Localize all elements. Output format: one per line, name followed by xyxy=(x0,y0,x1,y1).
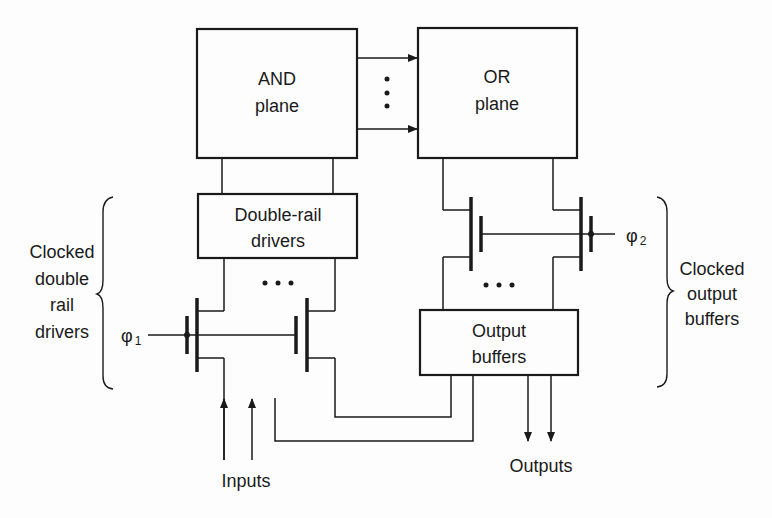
phi2-junction-dot xyxy=(588,231,594,237)
and-plane-label-2: plane xyxy=(255,96,299,116)
svg-text:double: double xyxy=(35,269,89,289)
left-brace xyxy=(97,197,113,389)
phi1-junction-dot xyxy=(184,332,190,338)
feedback-wires xyxy=(275,358,473,441)
svg-text:rail: rail xyxy=(50,295,74,315)
or-plane-block: OR plane xyxy=(418,28,577,158)
phi1-label: φ1 xyxy=(121,326,142,348)
svg-text:Clocked: Clocked xyxy=(29,242,94,262)
and-to-driver-wires xyxy=(222,158,333,194)
or-plane-label: OR xyxy=(484,67,511,87)
left-group-label: Clocked double rail drivers xyxy=(29,242,94,342)
outputs-label: Outputs xyxy=(509,456,572,476)
and-plane-block: AND plane xyxy=(197,29,357,158)
output-arrows xyxy=(528,375,551,441)
pla-diagram: AND plane OR plane Double-rail drivers xyxy=(0,0,772,518)
svg-text:Clocked: Clocked xyxy=(679,259,744,279)
phi2-label: φ2 xyxy=(626,226,647,248)
right-group-label: Clocked output buffers xyxy=(679,259,744,329)
left-clocked-transistors xyxy=(148,258,335,460)
inputs-label: Inputs xyxy=(221,471,270,491)
output-buffers-block: Output buffers xyxy=(420,310,578,375)
output-buffers-label: Output xyxy=(472,321,526,341)
left-horizontal-ellipsis xyxy=(263,281,294,286)
input-arrows xyxy=(224,399,252,460)
right-brace xyxy=(657,197,673,387)
svg-text:buffers: buffers xyxy=(685,309,740,329)
double-rail-label: Double-rail xyxy=(234,205,321,225)
or-plane-label-2: plane xyxy=(475,94,519,114)
svg-text:drivers: drivers xyxy=(35,322,89,342)
output-buffers-label-2: buffers xyxy=(472,347,527,367)
right-horizontal-ellipsis xyxy=(484,283,515,288)
and-plane-label: AND xyxy=(258,69,296,89)
svg-text:output: output xyxy=(687,284,737,304)
double-rail-drivers-block: Double-rail drivers xyxy=(198,194,357,258)
vertical-ellipsis xyxy=(385,77,390,109)
double-rail-label-2: drivers xyxy=(251,231,305,251)
